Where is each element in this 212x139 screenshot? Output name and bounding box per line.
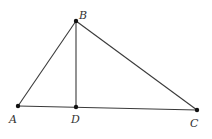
point-C: [195, 108, 199, 112]
label-A: A: [8, 113, 17, 126]
point-B: [74, 19, 78, 23]
point-D: [74, 105, 78, 109]
vertices: [16, 19, 199, 112]
label-C: C: [190, 117, 199, 130]
vertex-labels: ABCD: [8, 9, 199, 130]
point-A: [16, 104, 20, 108]
triangle-diagram: ABCD: [0, 0, 212, 139]
label-B: B: [78, 9, 87, 22]
segment-AB: [18, 21, 76, 106]
segments: [18, 21, 197, 110]
segment-AC: [18, 106, 197, 110]
segment-BC: [76, 21, 197, 110]
label-D: D: [70, 113, 80, 126]
